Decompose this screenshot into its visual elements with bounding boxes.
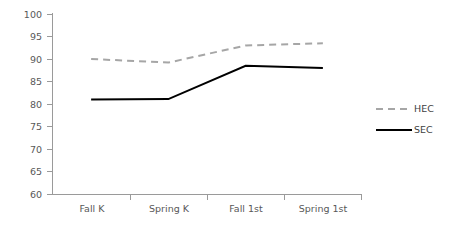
y-tick-label-80: 80 xyxy=(30,99,42,110)
legend-label-hec: HEC xyxy=(414,103,434,114)
chart-canvas: 100 95 90 85 80 75 70 65 60 Fall K Sprin… xyxy=(0,0,449,233)
y-tick-label-60: 60 xyxy=(30,189,42,200)
line-chart: 100 95 90 85 80 75 70 65 60 Fall K Sprin… xyxy=(0,0,449,233)
x-tick-label-spring-k: Spring K xyxy=(149,203,190,214)
y-tick-label-95: 95 xyxy=(30,31,42,42)
x-tick-label-fall-k: Fall K xyxy=(80,203,106,214)
x-tick-label-fall-1st: Fall 1st xyxy=(229,203,263,214)
y-tick-label-70: 70 xyxy=(30,144,42,155)
y-tick-label-75: 75 xyxy=(30,121,42,132)
chart-background xyxy=(0,0,449,233)
y-tick-label-65: 65 xyxy=(30,166,42,177)
y-tick-label-90: 90 xyxy=(30,54,42,65)
y-tick-label-100: 100 xyxy=(24,9,42,20)
y-tick-label-85: 85 xyxy=(30,76,42,87)
x-tick-label-spring-1st: Spring 1st xyxy=(299,203,348,214)
legend-label-sec: SEC xyxy=(414,124,433,135)
